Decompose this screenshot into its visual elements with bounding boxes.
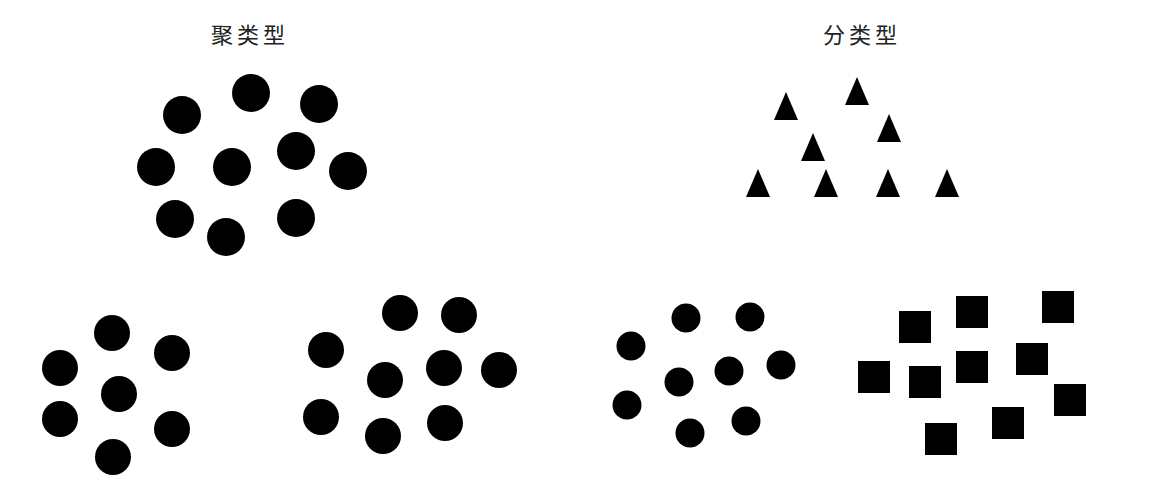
circle-marker [441,297,477,333]
circle-marker [617,332,646,361]
circle-marker [481,352,517,388]
circle-marker [329,152,367,190]
circle-marker [42,350,78,386]
square-marker [956,351,988,383]
circle-marker [613,391,642,420]
circle-marker [277,132,315,170]
circle-marker [101,376,137,412]
triangle-marker [845,77,869,105]
circle-marker [42,401,78,437]
triangle-marker [876,169,900,197]
circle-marker [277,199,315,237]
triangle-marker [801,133,825,161]
clustering-circle-group-bottom-middle [303,295,517,454]
diagram-canvas [0,0,1168,496]
clustering-circle-group-bottom-left [42,315,190,475]
circle-marker [154,411,190,447]
square-marker [925,423,957,455]
square-marker [956,296,988,328]
circle-marker [736,303,765,332]
square-marker [1054,384,1086,416]
square-marker [1042,291,1074,323]
square-marker [858,361,890,393]
circle-marker [156,200,194,238]
circle-marker [426,350,462,386]
circle-marker [365,418,401,454]
circle-marker [300,85,338,123]
square-marker [909,366,941,398]
circle-marker [95,439,131,475]
circle-marker [232,74,270,112]
square-marker [899,311,931,343]
circle-marker [427,405,463,441]
circle-marker [303,399,339,435]
circle-marker [207,218,245,256]
circle-marker [382,295,418,331]
circle-marker [137,148,175,186]
circle-marker [672,304,701,333]
circle-marker [308,332,344,368]
clustering-circle-group-top [137,74,367,256]
square-marker [1016,343,1048,375]
circle-marker [367,362,403,398]
triangle-marker [746,169,770,197]
classification-square-group [858,291,1086,455]
circle-marker [732,407,761,436]
circle-marker [665,368,694,397]
circle-marker [213,148,251,186]
triangle-marker [877,114,901,142]
triangle-marker [935,169,959,197]
circle-marker [154,335,190,371]
circle-marker [676,419,705,448]
square-marker [992,407,1024,439]
circle-marker [767,351,796,380]
classification-circle-group [613,303,796,448]
circle-marker [163,96,201,134]
circle-marker [715,357,744,386]
triangle-marker [774,92,798,120]
circle-marker [94,315,130,351]
classification-triangle-group [746,77,959,197]
triangle-marker [814,169,838,197]
